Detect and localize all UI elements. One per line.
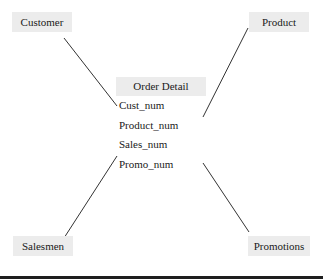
field-cust-num: Cust_num — [116, 96, 206, 116]
field-product-num: Product_num — [116, 116, 206, 136]
connector-product — [203, 28, 248, 117]
dimension-customer: Customer — [12, 12, 72, 32]
connector-customer — [64, 38, 117, 106]
connector-salesmen — [64, 156, 117, 238]
fact-table-title: Order Detail — [116, 77, 206, 96]
dimension-label: Product — [262, 16, 296, 28]
dimension-label: Salesmen — [22, 240, 64, 252]
dimension-label: Customer — [21, 16, 64, 28]
dimension-promotions: Promotions — [248, 236, 310, 256]
field-promo-num: Promo_num — [116, 155, 206, 175]
fact-table-fields: Cust_num Product_num Sales_num Promo_num — [116, 96, 206, 174]
field-sales-num: Sales_num — [116, 135, 206, 155]
dimension-label: Promotions — [254, 240, 305, 252]
dimension-salesmen: Salesmen — [13, 236, 73, 256]
dimension-product: Product — [249, 12, 309, 32]
connector-promotions — [203, 163, 249, 232]
fact-table-order-detail: Order Detail Cust_num Product_num Sales_… — [116, 77, 206, 174]
star-schema-diagram: Customer Product Order Detail Cust_num P… — [0, 0, 323, 279]
